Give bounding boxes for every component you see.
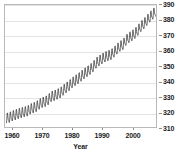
x-axis-tick-mark xyxy=(12,128,13,130)
data-series-line xyxy=(5,5,156,127)
plot-area xyxy=(4,4,157,128)
y-axis-tick-label: 340 xyxy=(163,78,174,85)
y-axis-tick-mark xyxy=(159,51,162,52)
x-axis-tick-label: 2000 xyxy=(126,132,141,140)
y-axis-tick-label: 310 xyxy=(163,125,174,132)
y-axis-tick-label: 330 xyxy=(163,94,174,101)
y-axis-tick-label: 320 xyxy=(163,109,174,116)
co2-keeling-curve-chart: 310320330340350360370380390 196019701980… xyxy=(0,0,195,159)
y-axis-tick-label: 390 xyxy=(163,1,174,8)
y-axis-tick-labels: 310320330340350360370380390 xyxy=(159,0,195,135)
y-axis-tick-label: 360 xyxy=(163,47,174,54)
y-axis-tick-label: 350 xyxy=(163,63,174,70)
y-axis-tick-label: 380 xyxy=(163,16,174,23)
y-axis-tick-mark xyxy=(159,35,162,36)
y-axis-tick-mark xyxy=(159,4,162,5)
x-axis-tick-labels: 19601970198019902000 xyxy=(0,130,160,144)
x-axis-tick-label: 1990 xyxy=(95,132,110,140)
y-axis-tick-mark xyxy=(159,128,162,129)
y-axis-tick-mark xyxy=(159,113,162,114)
y-axis-tick-mark xyxy=(159,66,162,67)
x-axis-tick-label: 1980 xyxy=(65,132,80,140)
y-axis-tick-mark xyxy=(159,20,162,21)
x-axis-tick-label: 1970 xyxy=(35,132,50,140)
y-axis-tick-label: 370 xyxy=(163,32,174,39)
x-axis-tick-mark xyxy=(72,128,73,130)
x-axis-tick-mark xyxy=(133,128,134,130)
x-axis-tick-label: 1960 xyxy=(5,132,20,140)
x-axis-tick-mark xyxy=(42,128,43,130)
x-axis-tick-mark xyxy=(102,128,103,130)
y-axis-tick-mark xyxy=(159,82,162,83)
x-axis-title: Year xyxy=(0,143,161,150)
y-axis-tick-mark xyxy=(159,97,162,98)
